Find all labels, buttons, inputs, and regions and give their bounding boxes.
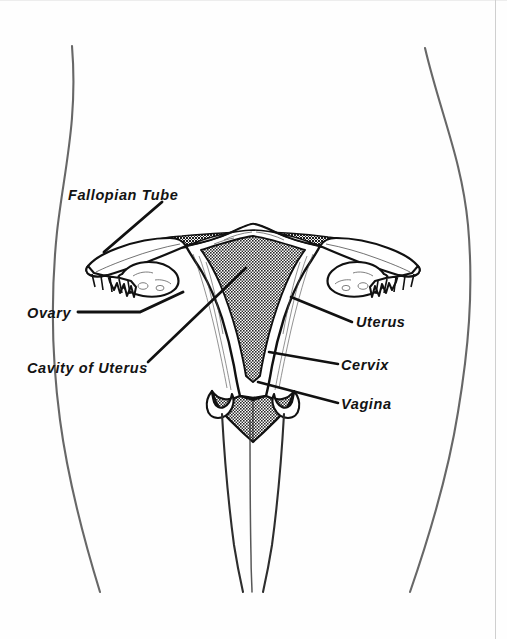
label-cervix: Cervix: [341, 357, 389, 373]
uterine-cavity: [201, 236, 305, 382]
label-cavity-of-uterus: Cavity of Uterus: [27, 360, 148, 376]
anatomy-figure: [0, 0, 507, 639]
cervix-leader: [269, 352, 338, 364]
label-vagina: Vagina: [341, 396, 392, 412]
body-outline-right: [410, 48, 470, 592]
diagram-page: Fallopian Tube Ovary Cavity of Uterus Ut…: [0, 0, 507, 639]
uterus-leader: [291, 297, 352, 322]
label-ovary: Ovary: [27, 305, 71, 321]
label-uterus: Uterus: [356, 314, 406, 330]
label-fallopian-tube: Fallopian Tube: [68, 187, 178, 203]
